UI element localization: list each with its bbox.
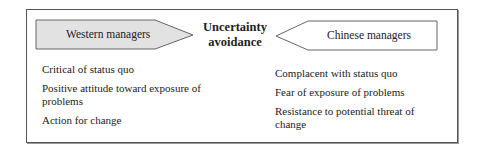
center-label: Uncertainty avoidance <box>196 20 274 50</box>
chinese-managers-label: Chinese managers <box>327 29 411 41</box>
chinese-trait-item: Complacent with status quo <box>275 67 445 80</box>
western-managers-label: Western managers <box>66 28 150 40</box>
center-label-line2: avoidance <box>196 35 274 50</box>
center-label-line1: Uncertainty <box>196 20 274 35</box>
western-trait-item: Critical of status quo <box>42 63 232 76</box>
western-traits-list: Critical of status quo Positive attitude… <box>42 63 232 133</box>
western-trait-item: Positive attitude toward exposure of pro… <box>42 82 232 108</box>
chinese-traits-list: Complacent with status quo Fear of expos… <box>275 67 445 137</box>
chinese-trait-item: Resistance to potential threat of change <box>275 105 445 131</box>
chinese-trait-item: Fear of exposure of problems <box>275 86 445 99</box>
western-trait-item: Action for change <box>42 114 232 127</box>
